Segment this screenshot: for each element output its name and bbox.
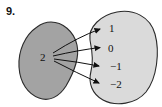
codomain-element-1: 1 (109, 22, 115, 34)
domain-element-2: 2 (40, 51, 46, 63)
figure-canvas: 9. 2 1 0 −1 −2 (0, 0, 162, 107)
codomain-element-neg2: −2 (110, 78, 122, 90)
codomain-element-neg1: −1 (110, 60, 122, 72)
codomain-element-0: 0 (108, 42, 114, 54)
codomain-oval (90, 11, 158, 103)
mapping-diagram: 2 1 0 −1 −2 (0, 0, 162, 107)
